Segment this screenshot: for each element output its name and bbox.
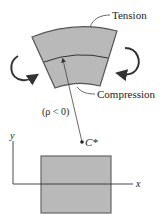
right-moment-arrow-icon bbox=[121, 48, 139, 75]
y-axis-label: y bbox=[9, 130, 15, 141]
curved-beam-diagram: Tension Compression (ρ < 0) C* y x bbox=[0, 0, 161, 215]
center-of-curvature-point bbox=[80, 140, 84, 144]
x-axis-label: x bbox=[135, 178, 141, 189]
compression-label: Compression bbox=[97, 88, 156, 100]
center-label: C* bbox=[85, 136, 98, 148]
cross-section-rectangle bbox=[41, 156, 111, 213]
curved-beam-segment bbox=[32, 27, 117, 88]
compression-leader-line bbox=[77, 87, 95, 94]
left-moment-arrow-icon bbox=[11, 56, 34, 80]
tension-leader-line bbox=[90, 15, 110, 27]
tension-label: Tension bbox=[112, 9, 147, 21]
radius-label: (ρ < 0) bbox=[42, 106, 69, 118]
